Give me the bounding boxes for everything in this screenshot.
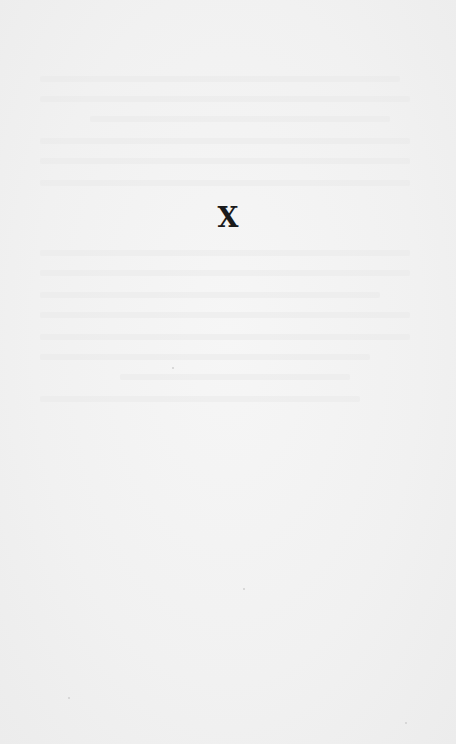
chapter-numeral: X	[0, 202, 456, 234]
paper-speck	[243, 588, 245, 590]
bleed-through-line	[40, 96, 410, 102]
bleed-through-line	[40, 76, 400, 82]
bleed-through-line	[40, 354, 370, 360]
bleed-through-line	[40, 250, 410, 256]
bleed-through-line	[40, 292, 380, 298]
bleed-through-line	[40, 138, 410, 144]
bleed-through-line	[90, 116, 390, 122]
paper-speck	[405, 722, 407, 724]
bleed-through-line	[40, 396, 360, 402]
bleed-through-line	[40, 312, 410, 318]
bleed-through-line	[40, 158, 410, 164]
bleed-through-line	[40, 270, 410, 276]
book-page: X	[0, 0, 456, 744]
bleed-through-line	[120, 374, 350, 380]
bleed-through-line	[40, 334, 410, 340]
paper-speck	[68, 697, 70, 699]
paper-speck	[172, 367, 174, 369]
bleed-through-line	[40, 180, 410, 186]
